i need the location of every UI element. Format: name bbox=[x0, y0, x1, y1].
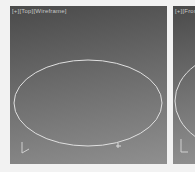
ellipse-shape[interactable] bbox=[14, 60, 162, 146]
ellipse-shape[interactable] bbox=[175, 51, 195, 151]
viewport-canvas bbox=[10, 6, 167, 164]
axis-tripod-icon bbox=[22, 142, 29, 153]
viewport-canvas bbox=[173, 6, 195, 164]
viewport-left[interactable]: [+][Top][Wireframe] bbox=[10, 6, 167, 164]
axis-tripod-icon bbox=[181, 139, 188, 152]
pivot-gizmo-icon bbox=[116, 143, 121, 148]
viewport-right[interactable]: [+][Front] bbox=[173, 6, 195, 164]
